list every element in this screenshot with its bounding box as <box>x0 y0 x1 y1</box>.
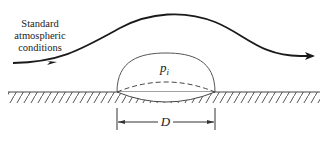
dimension-d: D <box>117 108 215 130</box>
flow-label: Standard atmospheric conditions <box>14 18 66 53</box>
svg-text:conditions: conditions <box>18 42 62 53</box>
dimension-label: D <box>160 114 171 129</box>
svg-text:Standard: Standard <box>21 18 59 29</box>
dome-base-dashed-arc <box>117 82 215 92</box>
diagram-canvas: pi Standard atmospheric conditions D <box>0 0 329 141</box>
dimension-arrow-right-icon <box>207 120 214 124</box>
flow-arrow-icon <box>47 61 57 65</box>
svg-text:atmospheric: atmospheric <box>14 30 66 41</box>
dimension-arrow-left-icon <box>118 120 125 124</box>
internal-pressure-label: pi <box>159 60 170 77</box>
